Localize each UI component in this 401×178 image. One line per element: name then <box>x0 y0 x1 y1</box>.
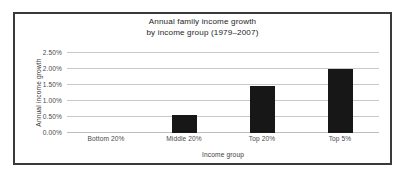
x-tick-label-middle-20: Middle 20% <box>145 135 223 142</box>
bar-slot-middle-20 <box>145 52 223 133</box>
figure-frame: Annual family income growth by income gr… <box>13 12 392 165</box>
chart-title: Annual family income growth by income gr… <box>15 17 390 38</box>
bar-top-5[interactable] <box>328 69 353 133</box>
y-axis-title-text: Annual income growth <box>35 58 42 126</box>
y-tick-label-2.50: 2.50% <box>43 49 62 56</box>
chart-title-line-1: Annual family income growth <box>15 17 390 28</box>
x-tick-labels: Bottom 20% Middle 20% Top 20% Top 5% <box>67 135 379 142</box>
bar-series <box>67 52 379 133</box>
y-tick-label-1.50: 1.50% <box>43 81 62 88</box>
x-tick-label-top-20: Top 20% <box>223 135 301 142</box>
bar-slot-top-20 <box>223 52 301 133</box>
y-tick-label-0.50: 0.50% <box>43 113 62 120</box>
x-tick-label-top-5: Top 5% <box>301 135 379 142</box>
x-axis-title: Income group <box>67 151 379 158</box>
chart-title-line-2: by income group (1979–2007) <box>15 28 390 39</box>
bar-middle-20[interactable] <box>172 115 197 133</box>
chart-page: Annual family income growth by income gr… <box>0 0 401 178</box>
plot-area: 2.50% 2.00% 1.50% 1.00% 0.50% <box>67 52 379 133</box>
y-tick-label-1.00: 1.00% <box>43 97 62 104</box>
bar-top-20[interactable] <box>250 86 275 133</box>
bar-slot-top-5 <box>301 52 379 133</box>
y-tick-label-0.00: 0.00% <box>43 129 62 136</box>
bar-slot-bottom-20 <box>67 52 145 133</box>
chart-area: Annual family income growth by income gr… <box>15 14 390 163</box>
y-tick-label-2.00: 2.00% <box>43 65 62 72</box>
x-tick-label-bottom-20: Bottom 20% <box>67 135 145 142</box>
